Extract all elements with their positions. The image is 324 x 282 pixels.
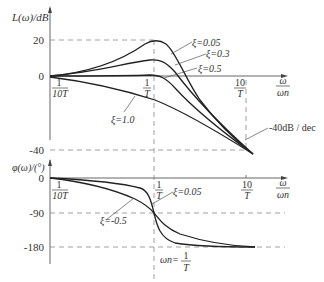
curve-xi-0.5: [50, 75, 253, 154]
ytick-minus40: -40: [29, 144, 44, 156]
svg-text:ωn: ωn: [277, 189, 289, 200]
svg-text:10: 10: [235, 77, 245, 88]
phase-plot: 0 -90 -180 φ(ω)/(°) 1 10T 1 T 10 T ω ωn: [12, 159, 290, 273]
svg-text:ω: ω: [279, 75, 286, 86]
label-xi-0.5: ξ=0.5: [198, 63, 222, 75]
svg-text:T: T: [244, 190, 251, 201]
label-phase-xi-0.5: ξ=-0.5: [100, 215, 127, 227]
svg-text:10T: 10T: [52, 190, 69, 201]
phase-xtick-1-over-T: 1 T: [155, 179, 163, 201]
magnitude-x-label: ω ωn: [276, 75, 290, 98]
svg-text:1: 1: [57, 179, 62, 190]
ytick-0: 0: [39, 70, 45, 82]
omega-n-annotation: ωn= 1 T: [160, 250, 191, 273]
phase-y-axis-arrow-icon: [48, 159, 52, 166]
svg-text:10: 10: [242, 179, 252, 190]
phase-curve-xi-0.5: [50, 178, 255, 247]
phase-ytick-minus180: -180: [24, 241, 45, 253]
xtick-1-over-10T: 1 10T: [52, 77, 69, 99]
curve-xi-1.0: [50, 77, 253, 154]
phase-ytick-minus90: -90: [29, 207, 44, 219]
xtick-10-over-T: 10 T: [234, 77, 246, 99]
phase-curve-xi-0.05: [50, 178, 255, 247]
y-axis-arrow-icon: [48, 6, 52, 13]
phase-y-label: φ(ω)/(°): [12, 162, 45, 174]
leader-slope: [245, 128, 268, 140]
phase-x-label: ω ωn: [276, 177, 290, 200]
slope-label: -40dB / dec: [269, 122, 316, 133]
leader-xi-1.0: [124, 96, 135, 112]
phase-ytick-0: 0: [39, 172, 45, 184]
svg-text:T: T: [183, 262, 190, 273]
label-phase-xi-0.05: ξ=0.05: [173, 186, 202, 198]
svg-text:ωn: ωn: [277, 87, 289, 98]
label-xi-0.3: ξ=0.3: [206, 48, 230, 60]
svg-text:10T: 10T: [52, 88, 69, 99]
svg-text:T: T: [237, 88, 244, 99]
svg-text:1: 1: [157, 179, 162, 190]
xtick-1-over-T: 1 T: [143, 77, 151, 99]
svg-text:ω: ω: [279, 177, 286, 188]
bode-diagram: 20 0 -40 L(ω)/dB 1 10T 1 T 10 T ω ωn: [0, 0, 324, 282]
magnitude-plot: 20 0 -40 L(ω)/dB 1 10T 1 T 10 T ω ωn: [11, 6, 316, 282]
phase-xtick-1-over-10T: 1 10T: [52, 179, 69, 201]
svg-text:ωn=: ωn=: [160, 254, 179, 265]
leader-xi-0.05: [171, 42, 192, 54]
phase-xtick-10-over-T: 10 T: [241, 175, 253, 201]
ytick-20: 20: [33, 34, 45, 46]
svg-text:1: 1: [145, 77, 150, 88]
label-xi-1.0: ξ=1.0: [111, 114, 135, 126]
magnitude-y-label: L(ω)/dB: [11, 11, 49, 24]
curve-xi-0.3: [50, 60, 253, 154]
svg-text:1: 1: [184, 250, 189, 261]
leader-phase-xi-0.05: [152, 192, 173, 204]
